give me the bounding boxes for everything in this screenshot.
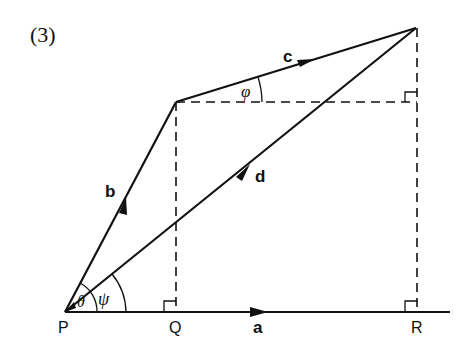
vector-b-label: b [105, 182, 115, 201]
vector-diagram: (3) c b d a φ θ ψ P Q R [0, 0, 470, 351]
angle-theta-label: θ [77, 293, 85, 310]
angle-psi-label: ψ [98, 289, 110, 309]
point-q-label: Q [169, 319, 181, 336]
vector-c-label: c [283, 47, 292, 66]
vector-a-label: a [253, 318, 263, 337]
point-r-label: R [411, 319, 423, 336]
vector-c-line [176, 28, 416, 102]
vector-c-arrowhead [297, 59, 315, 67]
right-angle-q [164, 301, 176, 312]
vector-a-arrowhead [250, 307, 268, 317]
point-p-label: P [58, 319, 69, 336]
construction-lines [176, 28, 417, 312]
angle-phi-label: φ [241, 82, 250, 101]
vector-d-label: d [255, 167, 265, 186]
angle-phi-arc [258, 77, 262, 102]
vector-b-line [65, 102, 176, 312]
right-angle-r [405, 301, 417, 312]
right-angle-top [405, 92, 417, 102]
angle-psi-arc [112, 274, 126, 312]
vector-d-line [65, 28, 416, 312]
figure-number: (3) [30, 22, 56, 47]
